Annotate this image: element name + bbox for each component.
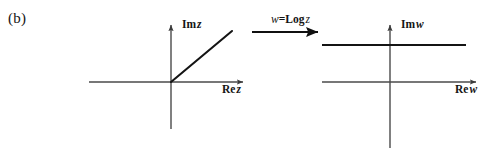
w-plane-real-axis-label: Rew [455, 84, 478, 96]
z-plane-group [89, 25, 243, 129]
re-w-variable: w [468, 83, 478, 95]
mapping-formula-label: w=Logz [271, 14, 311, 26]
im-z-variable: z [196, 18, 202, 30]
im-w-variable: w [415, 18, 425, 30]
w-plane-group [322, 25, 476, 148]
formula-argument: z [304, 13, 310, 25]
re-z-prefix: Re [222, 83, 235, 95]
panel-label: (b) [8, 11, 26, 26]
z-plane-ray [171, 31, 232, 82]
im-z-prefix: Im [182, 18, 196, 30]
w-plane-imaginary-axis-label: Imw [401, 19, 425, 31]
z-plane-real-axis-label: Rez [222, 84, 242, 96]
figure-container: (b) Imz Rez w=Logz Imw Rew [0, 0, 492, 148]
re-w-prefix: Re [455, 83, 468, 95]
im-w-prefix: Im [401, 18, 415, 30]
formula-lhs: w [271, 13, 279, 25]
re-z-variable: z [235, 83, 241, 95]
formula-operator: Log [285, 13, 304, 25]
z-plane-imaginary-axis-label: Imz [182, 19, 203, 31]
